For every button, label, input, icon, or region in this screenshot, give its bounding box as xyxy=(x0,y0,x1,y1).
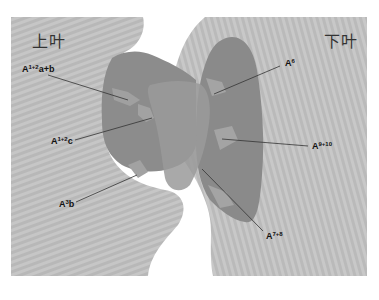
label-a6: A6 xyxy=(285,58,295,68)
label-a910: A9+10 xyxy=(312,141,332,151)
label-a3b: A3b xyxy=(59,199,74,209)
label-a78: A7+8 xyxy=(266,231,283,241)
label-a12ab: A1+2a+b xyxy=(22,64,54,74)
lower-lobe-label: 下叶 xyxy=(324,34,358,50)
upper-lobe-label: 上叶 xyxy=(32,34,66,50)
label-a12c: A1+2c xyxy=(51,136,73,146)
